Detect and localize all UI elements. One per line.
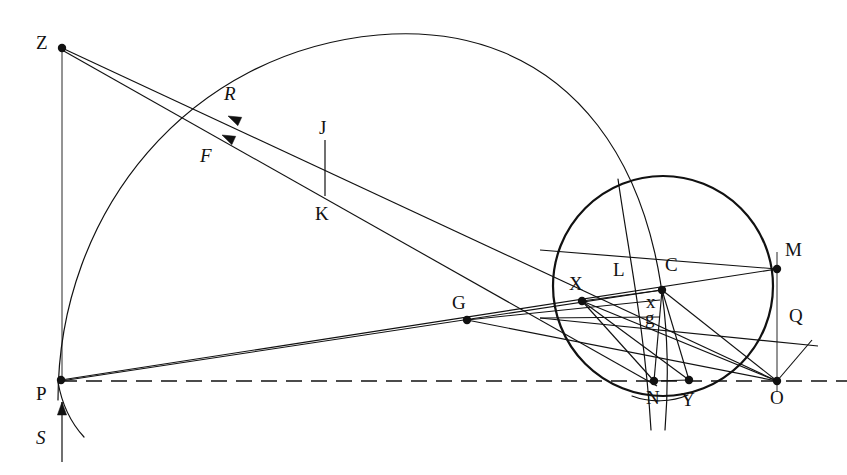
point-N	[650, 377, 658, 385]
label-L: L	[613, 260, 625, 279]
label-g: g	[645, 308, 655, 327]
label-G: G	[452, 293, 466, 312]
ray-X-to-Y	[582, 301, 689, 380]
diagram-canvas	[0, 0, 847, 475]
point-Z	[58, 44, 66, 52]
ray-X-to-O	[582, 301, 777, 381]
arcs-group	[58, 34, 688, 437]
label-Q: Q	[789, 306, 803, 325]
label-F: F	[200, 146, 212, 165]
large-outer-arc	[58, 34, 667, 430]
label-X: X	[569, 274, 583, 293]
ray-Q-line	[540, 318, 818, 346]
label-Z: Z	[36, 33, 48, 52]
rays-group	[61, 48, 818, 386]
label-J: J	[319, 118, 326, 137]
figure-root: ZRJFKMLCXGxQgPNYOS	[0, 0, 847, 475]
label-M: M	[785, 240, 802, 259]
label-Y: Y	[681, 390, 695, 409]
label-C: C	[665, 255, 678, 274]
point-G	[463, 316, 471, 324]
label-S: S	[36, 428, 46, 447]
ray-P-to-M	[61, 269, 777, 380]
point-M	[773, 265, 781, 273]
label-R: R	[224, 84, 236, 103]
label-O: O	[770, 388, 784, 407]
point-C	[658, 286, 666, 294]
ray-O-to-Q	[777, 340, 812, 381]
ray-upper-through-C	[540, 250, 777, 269]
point-O	[773, 377, 781, 385]
point-P	[57, 376, 65, 384]
label-K: K	[315, 204, 329, 223]
label-P: P	[36, 384, 47, 403]
point-X	[578, 297, 586, 305]
point-Y	[685, 376, 693, 384]
arrowhead-F	[222, 135, 236, 145]
arrowheads-group	[57, 116, 241, 415]
ray-P-to-X	[61, 290, 662, 381]
label-N: N	[646, 388, 660, 407]
arrowhead-R	[228, 116, 242, 126]
